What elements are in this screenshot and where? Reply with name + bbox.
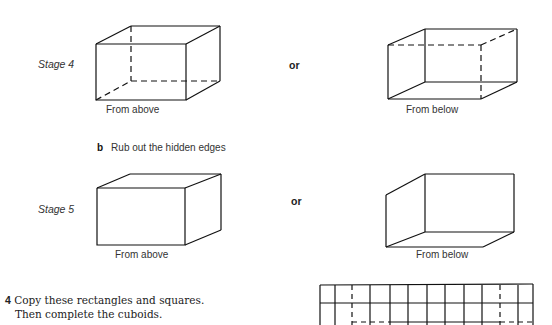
part-b-text: Rub out the hidden edges — [111, 142, 226, 153]
stage4-above-caption: From above — [106, 104, 159, 115]
stage4-below-caption: From below — [406, 104, 458, 115]
part-b-instruction: bRub out the hidden edges — [97, 142, 226, 153]
stage5-label: Stage 5 — [38, 203, 74, 215]
cuboid-stage4-from-below — [388, 29, 517, 99]
question-line2: Then complete the cuboids. — [5, 307, 204, 321]
stage5-below-caption: From below — [416, 249, 468, 260]
question-line1: Copy these rectangles and squares. — [14, 294, 204, 306]
cuboid-stage5-from-above — [97, 174, 221, 245]
cuboid-stage4-from-above — [96, 26, 220, 100]
stage5-or: or — [291, 195, 302, 207]
worksheet-page: Stage 4 or From above From below bRub ou… — [0, 0, 552, 325]
stage5-above-caption: From above — [115, 249, 168, 260]
rectangle-grid — [320, 284, 533, 325]
part-b-letter: b — [97, 142, 103, 153]
stage4-or: or — [289, 59, 300, 71]
question-4: 4 Copy these rectangles and squares. The… — [5, 293, 204, 321]
cuboid-stage5-from-below — [386, 174, 514, 247]
cuboid-drawings — [0, 0, 552, 325]
question-number: 4 — [5, 294, 11, 306]
stage4-label: Stage 4 — [38, 58, 74, 70]
